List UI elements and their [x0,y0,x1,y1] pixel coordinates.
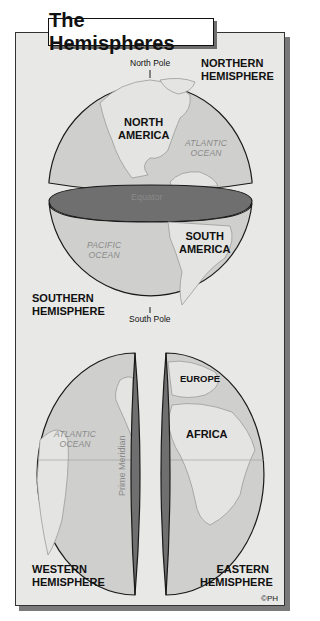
pacific-line-2: OCEAN [87,251,121,261]
europe-label: EUROPE [180,374,220,385]
western-line-1: WESTERN [32,563,105,576]
atlantic-top-line-2: OCEAN [185,149,227,159]
prime-meridian-label: Prime Meridian [117,435,127,496]
eastern-hemisphere-globe [161,353,264,595]
northern-line-1: NORTHERN [201,57,274,70]
north-america-line-2: AMERICA [118,129,169,142]
western-hemisphere-label: WESTERN HEMISPHERE [32,563,105,588]
western-line-2: HEMISPHERE [32,576,105,589]
atlantic-bottom-line-2: OCEAN [54,440,96,450]
southern-line-2: HEMISPHERE [32,305,105,318]
equator-label: Equator [131,192,163,202]
north-america-label: NORTH AMERICA [118,116,169,141]
south-america-label: SOUTH AMERICA [179,230,230,255]
eastern-line-1: EASTERN [200,563,269,576]
south-pole-label: South Pole [129,315,171,325]
northern-line-2: HEMISPHERE [201,70,274,83]
atlantic-ocean-top-label: ATLANTIC OCEAN [185,139,227,159]
equator-cut-face [49,185,252,222]
south-america-line-2: AMERICA [179,243,230,256]
southern-line-1: SOUTHERN [32,292,105,305]
copyright-label: ©PH [261,594,278,603]
pacific-ocean-label: PACIFIC OCEAN [87,241,121,261]
southern-hemisphere-label: SOUTHERN HEMISPHERE [32,292,105,317]
north-america-line-1: NORTH [118,116,169,129]
south-america-line-1: SOUTH [179,230,230,243]
northern-hemisphere-label: NORTHERN HEMISPHERE [201,57,274,82]
africa-label: AFRICA [186,428,228,441]
north-pole-label: North Pole [130,59,170,69]
eastern-line-2: HEMISPHERE [200,576,269,589]
eastern-hemisphere-label: EASTERN HEMISPHERE [200,563,269,588]
atlantic-ocean-bottom-label: ATLANTIC OCEAN [54,430,96,450]
diagram-title: The Hemispheres [48,18,214,46]
